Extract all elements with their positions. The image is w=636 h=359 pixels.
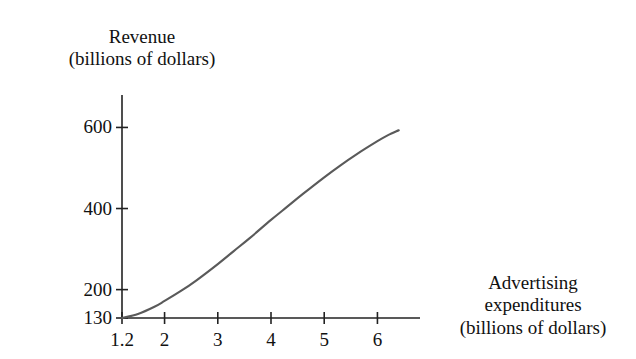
x-tick-label: 2	[140, 329, 190, 351]
y-axis-title-line1: Revenue	[22, 26, 262, 48]
y-axis-title: Revenue (billions of dollars)	[22, 26, 262, 71]
y-axis-title-line2: (billions of dollars)	[22, 48, 262, 70]
revenue-vs-advertising-chart: Revenue (billions of dollars) Advertisin…	[0, 0, 636, 359]
revenue-curve	[122, 130, 399, 318]
y-tick-label: 400	[64, 198, 112, 220]
y-tick-label: 130	[64, 307, 112, 329]
y-tick-label: 600	[64, 116, 112, 138]
x-tick-label: 5	[299, 329, 349, 351]
x-tick-label: 3	[193, 329, 243, 351]
x-tick-label: 4	[246, 329, 296, 351]
x-axis-title-line2: expenditures	[430, 294, 636, 316]
x-axis-title: Advertising expenditures (billions of do…	[430, 272, 636, 339]
x-tick-label: 6	[352, 329, 402, 351]
x-axis-title-line3: (billions of dollars)	[430, 317, 636, 339]
x-axis-title-line1: Advertising	[430, 272, 636, 294]
y-tick-label: 200	[64, 279, 112, 301]
